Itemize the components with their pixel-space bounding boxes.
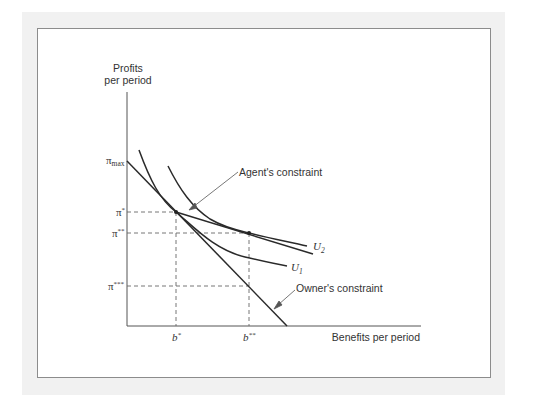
x-axis-label: Benefits per period [332,331,420,343]
y-axis-label-line1: Profits [113,62,143,74]
tick-pi-2star: π** [112,227,125,239]
u2-indifference-curve [168,166,307,246]
agent-pointer [193,172,238,207]
diagram-canvas: Profits per period Benefits per period π… [0,0,536,405]
y-axis-label-line2: per period [104,74,151,86]
point-b-star [174,210,178,214]
point-b-2star [247,231,251,235]
owners-constraint-line [127,161,287,326]
u2-label: U2 [313,240,325,255]
tick-b-star: b* [172,331,182,343]
tick-pi-star: π* [116,206,126,218]
u1-label: U1 [291,261,303,276]
tick-pi-3star: π*** [108,280,125,292]
owners-constraint-label: Owner's constraint [296,282,383,294]
agents-constraint-label: Agent's constraint [239,166,322,178]
tick-pi-max: πmax [106,154,125,168]
tick-b-2star: b** [243,331,256,343]
